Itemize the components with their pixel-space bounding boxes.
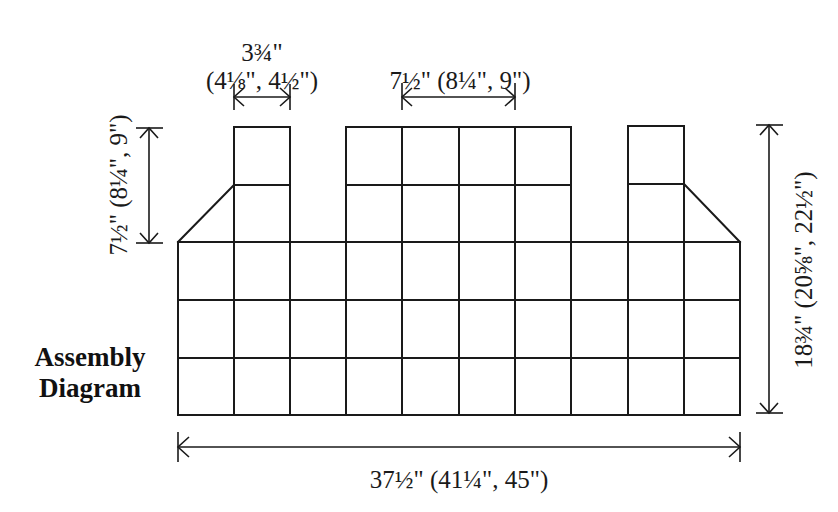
- right-column-block: [628, 126, 740, 242]
- column-width-label-line2: (4⅛", 4½"): [187, 68, 337, 93]
- column-height-label: 7½" (8¼", 9"): [106, 95, 132, 275]
- total-width-arrow: [178, 432, 740, 462]
- body-grid: [178, 242, 740, 415]
- title-line-2: Diagram: [20, 373, 160, 404]
- diagram-title: Assembly Diagram: [20, 342, 160, 404]
- total-height-arrow: [756, 125, 783, 413]
- center-block: [346, 127, 571, 242]
- column-height-arrow: [136, 128, 163, 243]
- left-column-block: [178, 127, 290, 242]
- column-width-label-line1: 3¾": [232, 40, 292, 65]
- total-height-label: 18¾" (20⅝", 22½"): [791, 160, 817, 380]
- center-width-label: 7½" (8¼", 9"): [370, 68, 550, 93]
- total-width-label: 37½" (41¼", 45"): [329, 467, 589, 492]
- title-line-1: Assembly: [20, 342, 160, 373]
